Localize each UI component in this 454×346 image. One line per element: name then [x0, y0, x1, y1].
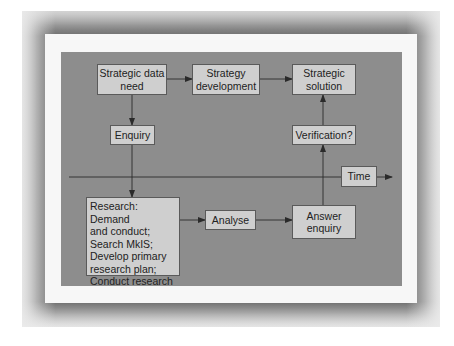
node-enquiry: Enquiry	[110, 125, 155, 145]
node-research: Research: Demand and conduct; Search MkI…	[86, 197, 180, 276]
time-label: Time	[341, 166, 377, 187]
node-strategy-development: Strategy development	[192, 64, 260, 95]
node-verification: Verification?	[292, 125, 356, 145]
node-analyse: Analyse	[205, 210, 256, 230]
node-strategic-data-need: Strategic data need	[97, 64, 167, 95]
node-answer-enquiry: Answer enquiry	[292, 205, 356, 239]
node-strategic-solution: Strategic solution	[292, 64, 356, 95]
connector-lines	[0, 0, 454, 346]
